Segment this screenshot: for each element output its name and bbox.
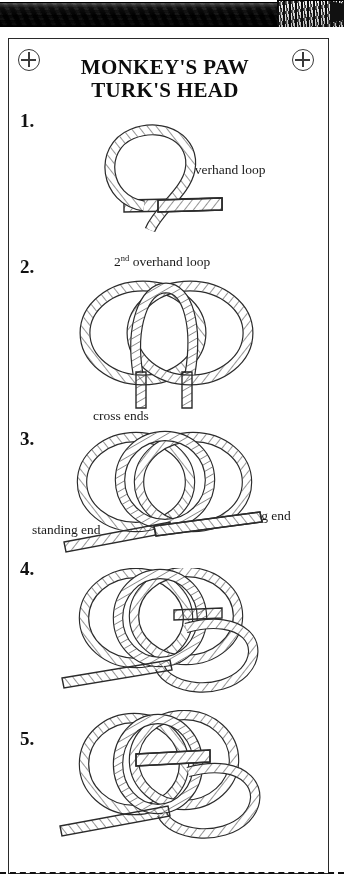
- knot-instruction-card-page: MONKEY'S PAW TURK'S HEAD 1. 2. 3. 4. 5. …: [0, 0, 344, 894]
- annotation-second-overhand-loop-tail: overhand loop: [129, 254, 210, 269]
- step-number-3: 3.: [20, 428, 34, 450]
- registration-crosshair-icon-left: [18, 49, 40, 71]
- step-number-4: 4.: [20, 558, 34, 580]
- registration-crosshair-icon-right: [292, 49, 314, 71]
- annotation-second-overhand-loop-number: 2: [114, 254, 121, 269]
- cut-line: [0, 872, 344, 874]
- knot-diagram-step-5: [58, 710, 288, 850]
- rope-photograph-banner: [0, 0, 344, 27]
- knot-diagram-step-4: [58, 568, 288, 703]
- step-number-2: 2.: [20, 256, 34, 278]
- rope-strands-image: [0, 2, 280, 27]
- knot-diagram-step-1: [78, 118, 278, 233]
- page-title: MONKEY'S PAW TURK'S HEAD: [40, 56, 290, 101]
- annotation-second-overhand-loop-ordinal: nd: [121, 253, 130, 263]
- step-number-5: 5.: [20, 728, 34, 750]
- step-number-1: 1.: [20, 110, 34, 132]
- knot-diagram-step-2: [70, 278, 275, 413]
- annotation-second-overhand-loop: 2nd overhand loop: [114, 254, 210, 270]
- rope-tip-image: [330, 1, 344, 23]
- title-line-2: TURK'S HEAD: [40, 79, 290, 102]
- title-line-1: MONKEY'S PAW: [81, 55, 249, 79]
- knot-diagram-step-3: [58, 430, 288, 555]
